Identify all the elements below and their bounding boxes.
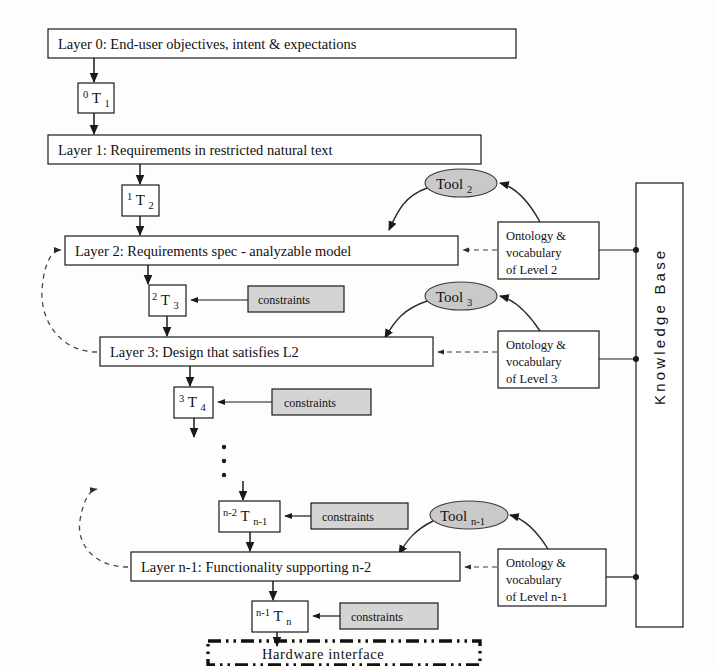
- transform-t4-sub: 4: [200, 402, 206, 413]
- kb-junction-dot-3: [633, 574, 639, 580]
- ontology-level3-node[interactable]: Ontology & vocabulary of Level 3: [498, 331, 599, 388]
- ellipsis-dot-1: [222, 445, 226, 449]
- tool2-base: Tool: [436, 176, 463, 192]
- ontology-level3-line2: vocabulary: [506, 355, 562, 369]
- constraints-tn-node[interactable]: constraints: [340, 603, 438, 629]
- tool3-sub: 3: [467, 297, 472, 308]
- constraints-t4-label: constraints: [284, 396, 336, 410]
- layer1-label: Layer 1: Requirements in restricted natu…: [58, 142, 333, 158]
- curve-onton1-to-tooln1: [510, 515, 548, 549]
- transform-t3-sup: 2: [152, 291, 157, 302]
- ontology-level3-line3: of Level 3: [506, 372, 557, 386]
- transform-tn1-node[interactable]: n-2 T n-1: [219, 501, 280, 532]
- knowledge-base-node[interactable]: Knowledge Base: [636, 183, 683, 627]
- hardware-interface-label: Hardware interface: [262, 646, 384, 662]
- transform-t3-sub: 3: [173, 300, 178, 311]
- layer3-label: Layer 3: Design that satisfies L2: [110, 344, 299, 360]
- transform-t4-node[interactable]: 3 T 4: [174, 387, 213, 418]
- constraints-t3-node[interactable]: constraints: [248, 286, 344, 312]
- ontology-level2-line2: vocabulary: [506, 246, 562, 260]
- constraints-tn1-label: constraints: [322, 510, 374, 524]
- ontology-level2-line3: of Level 2: [506, 263, 557, 277]
- tool3-base: Tool: [436, 289, 463, 305]
- ontology-leveln1-line2: vocabulary: [506, 573, 562, 587]
- transform-tn-sub: n: [286, 616, 292, 627]
- layer3-node[interactable]: Layer 3: Design that satisfies L2: [100, 337, 433, 366]
- transform-t1-base: T: [92, 90, 101, 106]
- constraints-t4-node[interactable]: constraints: [272, 389, 371, 415]
- vertical-ellipsis-icon: [222, 445, 226, 477]
- layer1-node[interactable]: Layer 1: Requirements in restricted natu…: [48, 135, 481, 164]
- ontology-level3-line1: Ontology &: [506, 338, 566, 352]
- curve-tool3-to-layer3: [385, 301, 427, 338]
- tool2-node[interactable]: Tool 2: [425, 169, 497, 197]
- tooln1-node[interactable]: Tool n-1: [430, 501, 508, 529]
- transform-tn-sup: n-1: [256, 607, 270, 618]
- layer0-node[interactable]: Layer 0: End-user objectives, intent & e…: [48, 29, 516, 58]
- layern1-node[interactable]: Layer n-1: Functionality supporting n-2: [131, 552, 460, 581]
- ontology-leveln1-line1: Ontology &: [506, 556, 566, 570]
- ellipsis-dot-2: [222, 459, 226, 463]
- kb-junction-dot-1: [633, 247, 639, 253]
- transform-tn-base: T: [273, 608, 282, 624]
- transform-t1-node[interactable]: 0 T 1: [78, 83, 114, 113]
- feedback-layern1-upward: [79, 489, 128, 567]
- transform-t1-sup: 0: [83, 89, 88, 100]
- transform-tn1-sup: n-2: [223, 507, 237, 518]
- curve-onto2-to-tool2: [500, 183, 540, 222]
- transform-t3-base: T: [161, 292, 170, 308]
- transform-t1-sub: 1: [104, 98, 109, 109]
- transform-t2-sup: 1: [127, 191, 132, 202]
- ellipsis-dot-3: [222, 473, 226, 477]
- layered-model-diagram: Layer 0: End-user objectives, intent & e…: [0, 0, 716, 666]
- transform-tn-node[interactable]: n-1 T n: [252, 601, 308, 632]
- layer2-label: Layer 2: Requirements spec - analyzable …: [75, 243, 351, 259]
- layer2-node[interactable]: Layer 2: Requirements spec - analyzable …: [65, 236, 458, 265]
- diagram-canvas: Layer 0: End-user objectives, intent & e…: [0, 0, 716, 666]
- transform-t2-node[interactable]: 1 T 2: [122, 185, 159, 216]
- transform-t3-node[interactable]: 2 T 3: [149, 285, 186, 316]
- ontology-leveln1-node[interactable]: Ontology & vocabulary of Level n-1: [498, 549, 606, 606]
- hardware-interface-node[interactable]: Hardware interface: [208, 641, 480, 665]
- ontology-leveln1-line3: of Level n-1: [506, 590, 568, 604]
- tooln1-sub: n-1: [471, 516, 485, 527]
- layer0-label: Layer 0: End-user objectives, intent & e…: [58, 36, 357, 52]
- ontology-level2-node[interactable]: Ontology & vocabulary of Level 2: [498, 222, 599, 279]
- curve-tool2-to-layer2: [389, 188, 427, 230]
- transform-t2-sub: 2: [148, 200, 153, 211]
- layern1-label: Layer n-1: Functionality supporting n-2: [141, 559, 371, 575]
- knowledge-base-label: Knowledge Base: [651, 248, 668, 405]
- constraints-tn-label: constraints: [351, 610, 403, 624]
- kb-junction-dot-2: [633, 356, 639, 362]
- transform-tn1-sub: n-1: [253, 516, 267, 527]
- tool2-sub: 2: [467, 184, 472, 195]
- ontology-level2-line1: Ontology &: [506, 229, 566, 243]
- transform-tn1-base: T: [240, 508, 249, 524]
- curve-onto3-to-tool3: [500, 296, 540, 331]
- transform-t4-sup: 3: [179, 393, 184, 404]
- tooln1-base: Tool: [440, 508, 467, 524]
- transform-t4-base: T: [188, 394, 197, 410]
- transform-t2-base: T: [136, 192, 145, 208]
- constraints-tn1-node[interactable]: constraints: [311, 503, 408, 529]
- constraints-t3-label: constraints: [258, 293, 310, 307]
- tool3-node[interactable]: Tool 3: [425, 282, 497, 310]
